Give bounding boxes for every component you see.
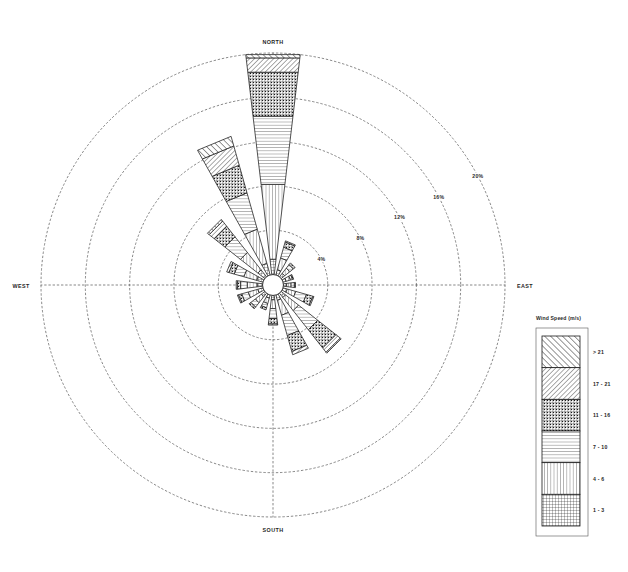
legend-swatch [542,463,580,495]
ring-label: 8% [357,235,365,241]
legend-swatch [542,431,580,463]
wind-rose-figure: 4%8%12%16%20% NORTHEASTSOUTHWEST Wind Sp… [0,0,628,572]
ring-label: 4% [317,256,325,262]
legend-swatch [542,336,580,368]
legend-label: 1 - 3 [593,507,604,513]
legend-label: > 21 [593,349,604,355]
direction-label-north: NORTH [262,39,283,45]
direction-label-west: WEST [12,283,29,289]
direction-label-east: EAST [517,283,533,289]
legend-title: Wind Speed (m/s) [536,315,581,321]
legend-label: 4 - 6 [593,476,604,482]
ring-label: 12% [394,214,405,220]
wind-rose-svg: 4%8%12%16%20% NORTHEASTSOUTHWEST Wind Sp… [0,0,628,572]
legend-label: 7 - 10 [593,444,607,450]
legend-label: 17 - 21 [593,381,611,387]
calm-circle [263,275,284,296]
legend-swatch [542,494,580,526]
direction-label-south: SOUTH [263,527,284,533]
ring-label: 20% [472,173,483,179]
legend-swatch [542,368,580,400]
ring-label: 16% [433,194,444,200]
legend-swatch [542,399,580,431]
legend-label: 11 - 16 [593,412,610,418]
